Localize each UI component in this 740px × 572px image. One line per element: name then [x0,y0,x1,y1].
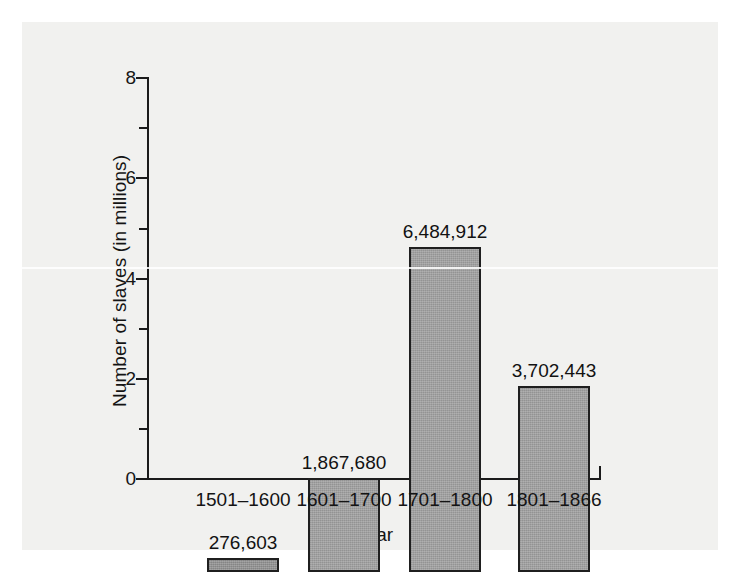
y-tick-minor-3 [139,328,147,330]
y-axis-line [147,77,149,480]
bar-value-label-1801-1866: 3,702,443 [512,361,597,380]
y-tick-label-8: 8 [96,68,136,87]
bar-value-label-1701-1800: 6,484,912 [403,222,488,241]
y-tick-major-0 [136,478,147,480]
x-category-label-3: 1701–1800 [385,489,505,511]
x-category-label-4: 1801–1866 [494,489,614,511]
y-tick-minor-5 [139,228,147,230]
y-tick-minor-7 [139,127,147,129]
y-tick-label-0: 0 [96,469,136,488]
bar-chart: 8 6 4 2 0 Number of slaves (in millions)… [0,0,740,572]
bar-1801-1866[interactable] [518,386,590,572]
bar-value-label-1501-1600: 276,603 [209,533,278,552]
figure: 8 6 4 2 0 Number of slaves (in millions)… [0,0,740,572]
y-tick-major-8 [136,77,147,79]
x-axis-end-tick [599,466,601,480]
bar-1501-1600[interactable] [207,558,279,572]
bar-value-label-1601-1700: 1,867,680 [302,453,387,472]
y-tick-major-6 [136,177,147,179]
y-axis-title: Number of slaves (in millions) [109,116,131,446]
y-tick-minor-1 [139,428,147,430]
y-tick-major-4 [136,278,147,280]
bar-1701-1800[interactable] [409,247,481,572]
y-tick-major-2 [136,378,147,380]
